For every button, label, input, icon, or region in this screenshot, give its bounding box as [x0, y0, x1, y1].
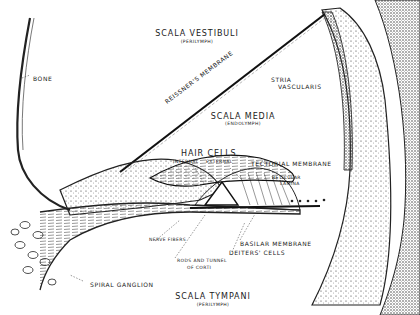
label-lamina: LAMINA [280, 182, 300, 187]
label-basilar-membrane: BASILAR MEMBRANE [240, 241, 312, 247]
label-tectorial-membrane: TECTORIAL MEMBRANE [251, 161, 332, 167]
label-scala-media-sub: (ENDOLYMPH) [225, 122, 261, 127]
label-reticular: RETICULAR [272, 176, 301, 181]
label-scala-vestibuli: SCALA VESTIBULI [155, 30, 238, 38]
label-deiters-cells: DEITERS' CELLS [229, 250, 285, 256]
label-spiral-ganglion: SPIRAL GANGLION [90, 282, 154, 288]
label-internal: INTERNAL [173, 160, 199, 165]
label-scala-vestibuli-sub: (PERILYMPH) [181, 40, 214, 45]
label-scala-tympani: SCALA TYMPANI [175, 293, 250, 301]
label-of-corti: OF CORTI [187, 266, 211, 271]
label-external: EXTERNAL [206, 160, 233, 165]
label-scala-tympani-sub: (PERILYMPH) [197, 303, 230, 308]
label-vascularis: VASCULARIS [278, 84, 322, 90]
bone-wall [17, 18, 70, 210]
label-bone: BONE [33, 76, 52, 82]
label-rods-tunnel: RODS AND TUNNEL [177, 259, 227, 264]
label-scala-media: SCALA MEDIA [211, 113, 276, 121]
label-hair-cells: HAIR CELLS [181, 150, 237, 158]
basilar-cells [291, 199, 326, 203]
label-nerve-fibers: NERVE FIBERS [149, 238, 186, 243]
